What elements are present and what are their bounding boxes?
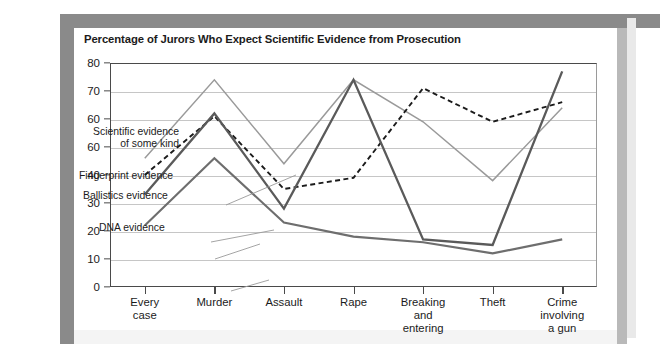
series-label-dna: DNA evidence [99, 222, 165, 234]
x-tick-label: Crimeinvolvinga gun [522, 296, 602, 336]
series-label-scientific-line2: of some kind [93, 138, 179, 150]
x-tick-label-line: Assault [244, 296, 324, 309]
scan-frame-right-shadow [617, 28, 627, 344]
x-tick-label-line: involving [522, 309, 602, 322]
x-tick-label: Breakingandentering [383, 296, 463, 336]
x-tick-mark [354, 287, 355, 294]
scan-frame-top [60, 14, 660, 28]
x-tick-mark [562, 287, 563, 294]
x-tick-label-line: Breaking [383, 296, 463, 309]
series-label-scientific-line1: Scientific evidence [93, 126, 179, 138]
x-tick-label-line: Crime [522, 296, 602, 309]
x-tick-mark [423, 287, 424, 294]
x-tick-mark [493, 287, 494, 294]
leader-line [211, 230, 274, 242]
x-tick-mark [284, 287, 285, 294]
leader-line [215, 244, 260, 259]
x-tick-label: Rape [314, 296, 394, 309]
x-tick-mark [145, 287, 146, 294]
x-tick-label-line: entering [383, 322, 463, 335]
x-tick-label: Everycase [105, 296, 185, 322]
x-tick-label-line: Rape [314, 296, 394, 309]
series-label-ballistics: Ballistics evidence [83, 190, 168, 202]
leader-line [226, 175, 296, 205]
scan-frame-left [60, 14, 74, 344]
x-axis-labels: EverycaseMurderAssaultRapeBreakingandent… [110, 296, 597, 352]
x-tick-label-line: case [105, 309, 185, 322]
x-tick-label-line: Theft [453, 296, 533, 309]
x-tick-label-line: a gun [522, 322, 602, 335]
x-axis-ticks [110, 287, 597, 295]
series-label-fingerprint: Fingerprint evidence [79, 170, 173, 182]
x-tick-mark [214, 287, 215, 294]
x-tick-label: Assault [244, 296, 324, 309]
chart-page: Percentage of Jurors Who Expect Scientif… [0, 0, 664, 358]
series-label-scientific: Scientific evidence of some kind [93, 126, 179, 150]
x-tick-label: Theft [453, 296, 533, 309]
x-tick-label: Murder [174, 296, 254, 309]
chart-title: Percentage of Jurors Who Expect Scientif… [84, 33, 461, 45]
x-tick-label-line: and [383, 309, 463, 322]
x-tick-label-line: Murder [174, 296, 254, 309]
x-tick-label-line: Every [105, 296, 185, 309]
scan-frame-outer-right [627, 18, 636, 338]
